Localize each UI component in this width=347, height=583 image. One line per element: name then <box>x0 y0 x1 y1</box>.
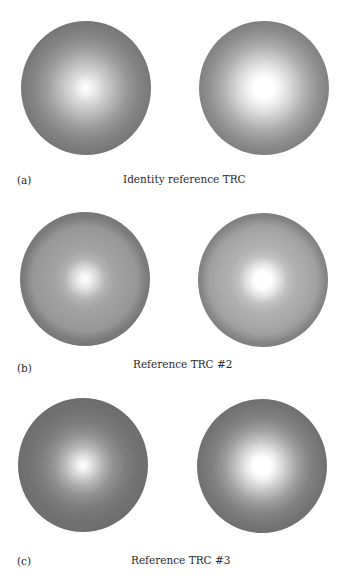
gradient-disc-small-highlight <box>18 398 148 532</box>
figure-panel-c: (c) Reference TRC #3 <box>0 0 347 583</box>
panel-caption: Reference TRC #3 <box>131 554 230 566</box>
gradient-disc-large-highlight <box>197 399 327 533</box>
panel-label: (c) <box>17 555 31 567</box>
